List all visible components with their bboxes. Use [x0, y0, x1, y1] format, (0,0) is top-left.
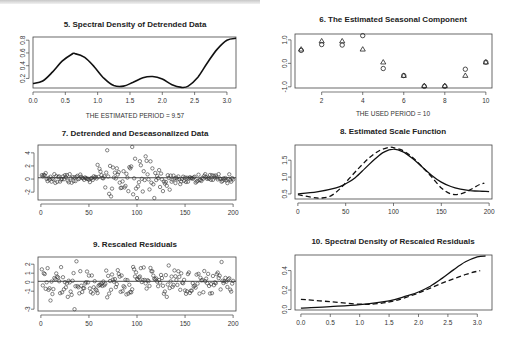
x-tick-label: 2.5 — [443, 319, 452, 326]
panel-9-rescaled-residuals: 9. Rescaled Residuals 050100150200-3-101… — [24, 240, 239, 327]
scatter-point — [134, 187, 137, 190]
scatter-point — [137, 181, 140, 184]
scatter-point — [143, 178, 146, 181]
y-tick-label: 2 — [24, 164, 31, 168]
scatter-point — [160, 276, 163, 279]
panel-5-axes: 0.00.51.01.52.02.53.00.20.40.60.8 — [19, 35, 232, 104]
scatter-point — [70, 293, 73, 296]
x-tick-label: 200 — [228, 209, 239, 216]
x-tick-label: 10 — [482, 97, 490, 104]
scatter-point — [40, 268, 43, 271]
scatter-point — [71, 279, 74, 282]
x-tick-label: 8 — [443, 97, 447, 104]
x-tick-label: 1.5 — [125, 97, 134, 104]
scatter-point — [55, 272, 58, 275]
scatter-point — [170, 275, 173, 278]
scatter-point — [159, 172, 162, 175]
scatter-point — [85, 270, 88, 273]
scatter-point — [79, 269, 82, 272]
x-tick-label: 2.5 — [190, 97, 199, 104]
scatter-point — [125, 172, 128, 175]
scatter-point — [211, 274, 214, 277]
triangle-marker — [340, 38, 345, 42]
y-tick-label: 1.0 — [281, 35, 288, 44]
triangle-marker — [463, 73, 468, 77]
x-tick-label: 200 — [228, 320, 239, 327]
scatter-point — [148, 284, 151, 287]
scatter-point — [106, 274, 109, 277]
panel-6-title: 6. The Estimated Seasonal Component — [319, 15, 467, 24]
x-tick-label: 6 — [402, 97, 406, 104]
circle-marker — [381, 66, 385, 70]
panel-9-title: 9. Rescaled Residuals — [93, 240, 178, 249]
panel-5-estimated-period: THE ESTIMATED PERIOD = 9.57 — [86, 112, 185, 119]
x-tick-label: 0 — [39, 209, 43, 216]
scatter-point — [133, 157, 136, 160]
panel-8-title: 8. Estimated Scale Function — [340, 127, 446, 136]
scatter-point — [155, 174, 158, 177]
scatter-point — [61, 276, 64, 279]
scatter-point — [149, 160, 152, 163]
panel-10-axes: 0.00.51.01.52.02.53.00.00.20.4 — [281, 266, 482, 326]
panel-9-scatter-points — [38, 260, 236, 311]
y-tick-label: 0.4 — [281, 266, 288, 275]
scatter-point — [203, 269, 206, 272]
scatter-point — [131, 193, 134, 196]
scatter-point — [214, 281, 217, 284]
x-tick-label: 2.0 — [158, 97, 167, 104]
circle-marker — [340, 43, 344, 47]
scatter-point — [72, 271, 75, 274]
scatter-point — [75, 260, 78, 263]
scatter-point — [92, 286, 95, 289]
scatter-point — [138, 160, 141, 163]
scatter-point — [127, 189, 130, 192]
scatter-point — [121, 180, 124, 183]
figure-canvas: 5. Spectral Density of Detrended Data 0.… — [0, 0, 511, 343]
scatter-point — [197, 173, 200, 176]
scatter-point — [144, 282, 147, 285]
scatter-point — [228, 173, 231, 176]
scatter-point — [51, 292, 54, 295]
scatter-point — [173, 269, 176, 272]
scatter-point — [107, 292, 110, 295]
scatter-point — [228, 277, 231, 280]
scatter-point — [149, 266, 152, 269]
y-tick-label: 0.0 — [281, 305, 288, 314]
scatter-point — [155, 178, 158, 181]
panel-6-plot-box — [295, 34, 492, 88]
panel-6-used-period: THE USED PERIOD = 10 — [356, 110, 431, 117]
scatter-point — [115, 282, 118, 285]
panel-6-markers — [299, 33, 489, 88]
scatter-point — [94, 288, 97, 291]
scatter-point — [220, 260, 223, 263]
scatter-point — [73, 308, 76, 311]
panel-5-title: 5. Spectral Density of Detrended Data — [64, 20, 207, 29]
scatter-point — [139, 164, 142, 167]
scatter-point — [227, 278, 230, 281]
y-tick-label: -2 — [24, 189, 31, 195]
scatter-point — [164, 273, 167, 276]
x-tick-label: 1.0 — [93, 97, 102, 104]
scatter-point — [165, 184, 168, 187]
panel-6-seasonal-component: 6. The Estimated Seasonal Component 2468… — [281, 15, 492, 117]
scatter-point — [206, 272, 209, 275]
x-tick-label: 100 — [132, 209, 143, 216]
scatter-point — [56, 275, 59, 278]
scatter-point — [106, 296, 109, 299]
circle-marker — [463, 67, 467, 71]
triangle-marker — [381, 60, 386, 64]
scatter-point — [202, 291, 205, 294]
scatter-point — [96, 163, 99, 166]
scatter-point — [174, 181, 177, 184]
y-tick-label: 0 — [24, 177, 31, 181]
triangle-marker — [360, 47, 365, 51]
panel-8-estimated-curve — [298, 149, 489, 194]
y-tick-label: 0 — [24, 280, 31, 284]
y-tick-label: 0.8 — [19, 35, 26, 44]
scatter-point — [56, 276, 59, 279]
scatter-point — [148, 188, 151, 191]
panel-7-scatter-points — [38, 145, 236, 199]
scatter-point — [157, 168, 160, 171]
panel-5-plot-box — [33, 37, 236, 88]
y-tick-label: 4 — [24, 151, 31, 155]
